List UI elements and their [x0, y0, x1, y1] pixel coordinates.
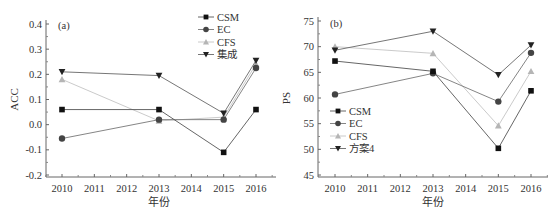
legend-label: 方案4 — [349, 142, 375, 154]
legend-label: EC — [349, 118, 362, 129]
legend-item: EC — [198, 24, 230, 35]
legend: CSMECCFS方案4 — [330, 106, 375, 155]
legend-item: 方案4 — [330, 142, 375, 154]
y-tick-label: 0.0 — [29, 119, 42, 130]
legend-item: CFS — [198, 37, 236, 48]
y-tick-label: 55 — [304, 118, 315, 129]
y-tick-label: 70 — [304, 41, 315, 52]
x-axis-title: 年份 — [422, 195, 444, 208]
figure: -0.2-0.10.00.10.20.30.420102011201220132… — [0, 0, 560, 218]
data-point-marker — [528, 88, 534, 94]
x-tick-label: 2010 — [325, 183, 346, 194]
data-point-marker — [332, 58, 338, 64]
legend-marker-icon — [335, 121, 341, 127]
legend-item: 集成 — [198, 48, 238, 60]
data-point-marker — [253, 65, 259, 71]
legend-marker-icon — [204, 15, 209, 20]
y-tick-label: 0.4 — [29, 19, 43, 30]
x-tick-label: 2013 — [149, 183, 170, 194]
legend-item: CSM — [198, 12, 240, 23]
panel-label: (b) — [330, 18, 343, 30]
y-tick-label: 50 — [304, 144, 315, 155]
x-tick-label: 2010 — [52, 183, 73, 194]
legend: CSMECCFS集成 — [198, 12, 240, 61]
data-point-marker — [332, 47, 339, 53]
y-tick-label: 0.2 — [29, 69, 42, 80]
data-point-marker — [59, 76, 66, 82]
data-point-marker — [332, 91, 338, 97]
x-tick-label: 2012 — [390, 183, 411, 194]
x-tick-label: 2016 — [521, 183, 542, 194]
y-tick-label: 75 — [304, 16, 315, 27]
data-point-marker — [496, 146, 502, 152]
series-line — [62, 110, 256, 153]
x-tick-label: 2011 — [84, 183, 105, 194]
data-point-marker — [156, 107, 162, 113]
legend-marker-icon — [336, 109, 341, 114]
data-point-marker — [59, 135, 65, 141]
x-tick-label: 2014 — [181, 183, 203, 194]
y-tick-label: -0.2 — [25, 170, 42, 181]
x-tick-label: 2012 — [116, 183, 137, 194]
y-tick-label: 0.1 — [29, 94, 42, 105]
y-tick-label: 0.3 — [29, 44, 42, 55]
data-point-marker — [430, 69, 436, 75]
legend-label: 集成 — [217, 48, 238, 60]
y-tick-label: 45 — [304, 170, 315, 181]
series-line — [62, 60, 256, 113]
series-EC — [332, 50, 534, 105]
x-tick-label: 2011 — [357, 183, 378, 194]
y-axis-title: ACC — [8, 88, 20, 111]
series-CSM — [59, 107, 259, 155]
data-point-marker — [156, 116, 162, 122]
legend-item: CFS — [330, 131, 368, 142]
x-tick-label: 2015 — [488, 183, 509, 194]
panel-label: (a) — [58, 20, 70, 32]
data-point-marker — [253, 107, 259, 113]
x-tick-label: 2014 — [455, 183, 477, 194]
series-CFS — [59, 61, 260, 124]
chart-acc: -0.2-0.10.00.10.20.30.420102011201220132… — [0, 0, 280, 218]
data-point-marker — [221, 150, 227, 156]
data-point-marker — [220, 116, 226, 122]
legend-label: CSM — [349, 106, 372, 117]
axes: 4550556065707520102011201220132014201520… — [280, 16, 548, 209]
legend-marker-icon — [203, 27, 209, 33]
legend-label: EC — [217, 24, 230, 35]
legend-label: CSM — [217, 12, 240, 23]
y-tick-label: -0.1 — [25, 144, 42, 155]
data-point-marker — [495, 98, 501, 104]
x-tick-label: 2016 — [246, 183, 267, 194]
data-point-marker — [253, 58, 260, 64]
x-axis-title: 年份 — [148, 195, 170, 208]
series-line — [335, 53, 531, 102]
data-point-marker — [59, 107, 65, 113]
legend-item: CSM — [330, 106, 372, 117]
legend-item: EC — [330, 118, 362, 129]
y-tick-label: 65 — [304, 67, 315, 78]
y-axis-title: PS — [280, 92, 292, 104]
y-tick-label: 60 — [304, 93, 315, 104]
data-point-marker — [528, 50, 534, 56]
legend-label: CFS — [217, 37, 236, 48]
chart-ps: 4550556065707520102011201220132014201520… — [280, 0, 560, 218]
legend-label: CFS — [349, 131, 368, 142]
data-point-marker — [528, 68, 535, 74]
x-tick-label: 2015 — [213, 183, 234, 194]
x-tick-label: 2013 — [423, 183, 444, 194]
data-point-marker — [495, 72, 502, 78]
